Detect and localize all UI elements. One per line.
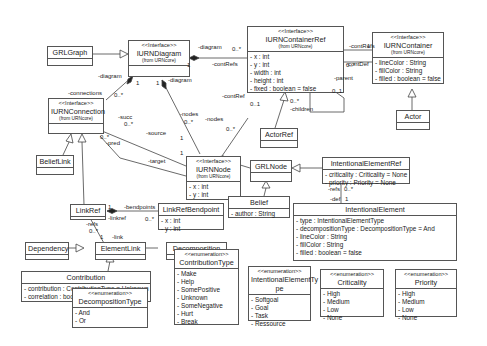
stereotype: <<enumeration>> [75, 290, 145, 297]
class-name: LinkRefBendpoint [161, 205, 221, 214]
multiplicity-label: 0..* [145, 216, 154, 222]
enum-literal: - Unknown [177, 294, 236, 302]
class-actorref[interactable]: ActorRef [260, 128, 298, 148]
class-iurndiagram[interactable]: <<Interface>> IURNDiagram (from URNcore) [128, 40, 190, 77]
multiplicity-label: 1 [180, 150, 183, 156]
enum-literal: - Make [177, 270, 236, 278]
class-actor[interactable]: Actor [396, 110, 430, 130]
class-name: Dependency [28, 244, 66, 253]
class-belieflink[interactable]: BeliefLink [36, 155, 74, 175]
role-label: -target [148, 158, 165, 164]
multiplicity-label: 0..* [124, 121, 133, 127]
attribute: - fillColor : String [375, 67, 441, 75]
enum-decompositiontype[interactable]: <<enumeration>> DecompositionType - And … [72, 288, 148, 328]
class-name: GRLNode [253, 162, 289, 171]
attribute: - filled : boolean = false [375, 75, 441, 83]
class-grlnode[interactable]: GRLNode [250, 160, 292, 182]
enum-literal: - SomeNegative [177, 302, 236, 310]
attribute: - criticality : Criticality = None [325, 171, 407, 179]
multiplicity-label: 1 [345, 196, 348, 202]
multiplicity-label: 0..1 [250, 101, 260, 107]
multiplicity-label: 0..* [184, 119, 193, 125]
stereotype: <<Interface>> [250, 28, 341, 35]
class-intentionalelement[interactable]: IntentionalElement - type : IntentionalE… [293, 203, 457, 261]
package-note: (from URNcore) [250, 44, 341, 50]
attribute: - lineColor : String [296, 233, 454, 241]
enum-literal: - Help [177, 278, 236, 286]
role-label: -connections [68, 90, 102, 96]
enum-literal: - Task [251, 312, 308, 320]
role-label: -diagram [168, 77, 192, 83]
class-name: Contribution [24, 273, 148, 282]
enum-literal: - Or [75, 317, 145, 325]
attribute: - width : int [250, 69, 341, 77]
class-iurnnode[interactable]: <<Interface>> IURNNode (from URNcore) - … [186, 156, 241, 200]
role-label: -succ [118, 114, 132, 120]
class-name: IntentionalElementRef [325, 159, 407, 168]
class-name: IURNNode [189, 165, 238, 174]
role-label: -contRef [222, 93, 245, 99]
class-dependency[interactable]: Dependency [25, 242, 69, 260]
class-intentionalelementref[interactable]: IntentionalElementRef - criticality : Cr… [322, 157, 410, 184]
attribute: - decompositionType : DecompositionType … [296, 225, 454, 233]
enum-literal: - Break [177, 318, 236, 326]
class-name: ContributionType [177, 258, 236, 267]
class-belief[interactable]: Belief - author : String [228, 196, 290, 218]
class-name: Belief [231, 198, 287, 207]
class-name: IURNConnection [51, 107, 101, 116]
multiplicity-label: 1 [180, 135, 183, 141]
stereotype: <<enumeration>> [177, 251, 236, 258]
enum-literal: - None [323, 314, 381, 322]
attribute: - y : int [161, 225, 221, 233]
class-iurnconnection[interactable]: <<Interface>> IURNConnection (from URNco… [48, 98, 104, 134]
class-name: DecompositionType [75, 297, 145, 306]
class-elementlink[interactable]: ElementLink [95, 242, 146, 260]
role-label: -def [330, 196, 340, 202]
role-label: -bendpoints [124, 204, 155, 210]
class-name-wrap: pe [251, 284, 308, 293]
role-label: -refs [328, 186, 340, 192]
role-label: -refs [86, 221, 98, 227]
attribute: - y : int [250, 61, 341, 69]
role-label: -linkref [108, 215, 126, 221]
package-note: (from URNcore) [189, 174, 238, 180]
class-grlgraph[interactable]: GRLGraph [47, 46, 93, 66]
enum-literal: - Goal [251, 304, 308, 312]
multiplicity-label: 1 [136, 80, 139, 86]
enum-literal: - Hurt [177, 310, 236, 318]
enum-literal: - SomePositive [177, 286, 236, 294]
enum-contributiontype[interactable]: <<enumeration>> ContributionType - Make … [174, 249, 239, 325]
role-label: -pred [106, 140, 120, 146]
enum-literal: - Low [323, 306, 381, 314]
role-label: -parent [334, 75, 353, 81]
class-name: BeliefLink [39, 157, 71, 166]
multiplicity-label: 0..1 [332, 88, 342, 94]
class-iurncontainer[interactable]: <<Interface>> IURNContainer (from URNcor… [372, 32, 444, 84]
attribute: - x : int [189, 183, 238, 191]
class-linkrefbendpoint[interactable]: LinkRefBendpoint - x : int - y : int [158, 203, 224, 230]
class-linkref[interactable]: LinkRef [70, 204, 106, 220]
attribute: - x : int [161, 217, 221, 225]
role-label: -source [146, 130, 166, 136]
attribute: - lineColor : String [375, 59, 441, 67]
multiplicity-label: 1 [187, 62, 190, 68]
multiplicity-label: 0..* [344, 186, 353, 192]
enum-literal: - Ressource [251, 320, 308, 328]
multiplicity-label: 1 [100, 234, 103, 240]
class-iurncontainerref[interactable]: <<Interface>> IURNContainerRef (from URN… [247, 26, 344, 93]
role-label: -diagram [198, 44, 222, 50]
role-label: -contDef [346, 61, 369, 67]
enum-literal: - Low [398, 306, 454, 314]
enum-literal: - None [398, 314, 454, 322]
stereotype: <<enumeration>> [251, 268, 308, 275]
enum-criticality[interactable]: <<enumeration>> Criticality - High - Med… [320, 269, 384, 317]
attribute: - fillColor : String [296, 241, 454, 249]
attribute: - x : int [250, 53, 341, 61]
role-label: -diagram [98, 73, 122, 79]
class-name: Criticality [323, 278, 381, 287]
multiplicity-label: 0..* [232, 46, 241, 52]
enum-priority[interactable]: <<enumeration>> Priority - High - Medium… [395, 269, 457, 317]
enum-intentionalelementtype[interactable]: <<enumeration>> IntentionalElementTy pe … [248, 266, 311, 321]
stereotype: <<Interface>> [51, 100, 101, 107]
enum-literal: - High [398, 290, 454, 298]
